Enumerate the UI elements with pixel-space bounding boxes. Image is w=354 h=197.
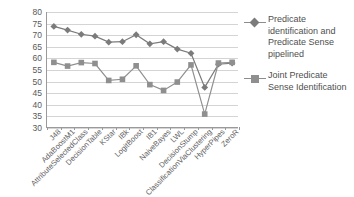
data-point-square	[133, 63, 139, 69]
data-point-square	[216, 60, 222, 66]
data-point-square	[78, 60, 84, 66]
legend-item-label: Joint Predicate Sense Identification	[268, 70, 347, 92]
y-tick-label: 30	[18, 124, 42, 132]
y-tick-label: 70	[18, 31, 42, 39]
y-tick-label: 80	[18, 8, 42, 16]
x-axis-labels: J48AdaBoostM1AttributeSelectedClassDecis…	[46, 128, 246, 197]
y-tick-label: 75	[18, 20, 42, 28]
data-point-square	[161, 88, 167, 94]
y-tick-label: 40	[18, 101, 42, 109]
y-axis-labels: 8075706560555045403530	[18, 12, 42, 128]
y-tick-label: 35	[18, 112, 42, 120]
data-point-diamond	[92, 33, 99, 40]
data-point-diamond	[105, 39, 112, 46]
data-point-diamond	[64, 27, 71, 34]
data-point-diamond	[78, 31, 85, 38]
data-point-diamond	[160, 38, 167, 45]
data-point-square	[51, 60, 57, 66]
legend-item-joint[interactable]: Joint Predicate Sense Identification	[244, 70, 354, 93]
data-point-square	[147, 82, 153, 88]
y-tick-label: 55	[18, 66, 42, 74]
diamond-line-icon	[244, 18, 266, 27]
legend-item-label: Predicate identification and Predicate S…	[268, 14, 336, 59]
legend-item-pipelined[interactable]: Predicate identification and Predicate S…	[244, 14, 354, 60]
data-point-diamond	[119, 38, 126, 45]
series-layer	[47, 12, 239, 128]
data-point-square	[120, 76, 126, 82]
data-point-square	[92, 61, 98, 67]
square-line-icon	[244, 74, 266, 83]
y-tick-label: 45	[18, 89, 42, 97]
y-tick-label: 60	[18, 54, 42, 62]
data-point-diamond	[201, 84, 208, 91]
plot-area	[46, 12, 238, 128]
data-point-diamond	[50, 23, 57, 30]
data-point-diamond	[133, 31, 140, 38]
data-point-square	[188, 62, 194, 68]
data-point-diamond	[188, 50, 195, 57]
chart-legend: Predicate identification and Predicate S…	[244, 14, 354, 104]
data-point-square	[65, 63, 71, 69]
data-point-diamond	[146, 40, 153, 47]
data-point-square	[229, 60, 235, 66]
data-point-square	[202, 111, 208, 117]
data-point-diamond	[174, 46, 181, 53]
data-point-square	[106, 78, 112, 84]
y-tick-label: 65	[18, 43, 42, 51]
line-chart: 8075706560555045403530 J48AdaBoostM1Attr…	[0, 0, 354, 197]
data-point-square	[174, 79, 180, 85]
y-tick-label: 50	[18, 78, 42, 86]
